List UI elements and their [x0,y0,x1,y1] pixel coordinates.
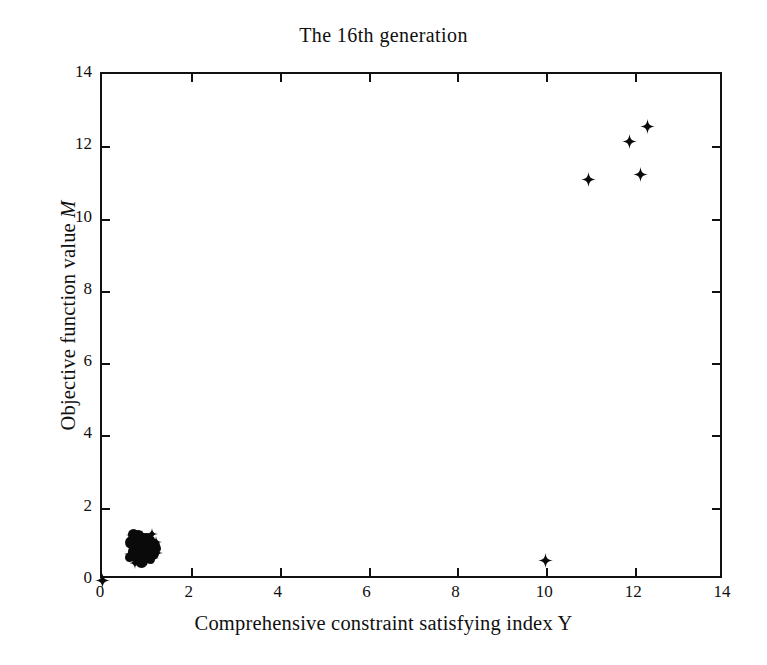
y-axis-tick-right [712,146,720,148]
y-axis-tick [102,291,110,293]
x-axis-tick-top [191,74,193,82]
x-tick-label: 4 [273,582,282,602]
y-axis-tick-right [712,219,720,221]
x-axis-tick [369,568,371,576]
plot-area [100,72,722,578]
cluster-blob-dot [146,538,157,549]
x-tick-label: 12 [625,582,642,602]
x-axis-tick-top [369,74,371,82]
x-axis-tick-top [457,74,459,82]
data-point-marker [640,119,655,134]
x-tick-label: 0 [96,582,105,602]
x-axis-tick [280,568,282,576]
x-tick-label: 14 [714,582,731,602]
x-axis-tick [457,568,459,576]
x-axis-tick [546,568,548,576]
cluster-blob-dot [135,555,148,568]
y-tick-label: 0 [52,568,92,588]
chart-title: The 16th generation [0,24,767,47]
x-axis-tick [191,568,193,576]
data-point-marker [538,553,553,568]
x-axis-tick [635,568,637,576]
x-axis-tick-top [635,74,637,82]
data-point-marker [633,167,648,182]
scatter-plot-figure: The 16th generation 02468101214024681012… [0,0,767,665]
x-tick-label: 10 [536,582,553,602]
y-axis-tick [102,508,110,510]
data-points-layer [102,74,720,576]
data-point-marker [622,134,637,149]
y-axis-tick-right [712,508,720,510]
x-axis-tick-top [280,74,282,82]
x-tick-label: 6 [362,582,371,602]
y-axis-tick [102,146,110,148]
y-axis-tick-right [712,363,720,365]
y-axis-tick-right [712,435,720,437]
x-axis-label: Comprehensive constraint satisfying inde… [0,612,767,635]
y-axis-tick [102,435,110,437]
y-axis-tick [102,219,110,221]
y-axis-tick [102,363,110,365]
x-axis-tick-top [546,74,548,82]
y-axis-tick-right [712,291,720,293]
x-tick-label: 8 [451,582,460,602]
y-axis-label: Objective function value M [57,106,80,526]
data-point-marker [581,172,596,187]
y-tick-label: 14 [52,62,92,82]
x-tick-label: 2 [185,582,194,602]
